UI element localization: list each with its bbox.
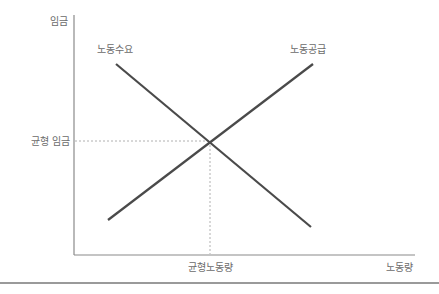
x-axis-label: 노동량 — [386, 262, 413, 274]
labor-supply-curve — [108, 64, 313, 220]
supply-label: 노동공급 — [290, 44, 326, 56]
y-axis-label: 임금 — [50, 16, 68, 28]
equilibrium-wage-label: 균형 임금 — [31, 136, 70, 148]
equilibrium-quantity-label: 균형노동량 — [188, 262, 233, 274]
demand-label: 노동수요 — [97, 44, 133, 56]
bottom-divider — [0, 282, 439, 284]
